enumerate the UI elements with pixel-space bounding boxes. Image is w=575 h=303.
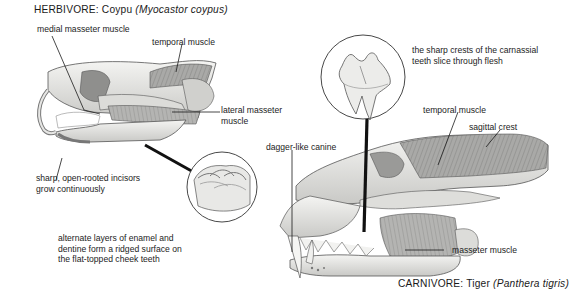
- label-coypu-temporal: temporal muscle: [152, 37, 215, 48]
- tiger-skull: [280, 134, 548, 278]
- label-sagittal-crest: sagittal crest: [469, 122, 517, 133]
- label-incisors-line2: grow continuously: [36, 184, 140, 195]
- label-cheek-teeth-line1: alternate layers of enamel and: [58, 233, 182, 244]
- carnivore-title: CARNIVORE: Tiger (Panthera tigris): [398, 278, 569, 289]
- label-cheek-teeth-line2: dentine form a ridged surface on: [58, 244, 182, 255]
- label-lateral-masseter-line2: muscle: [221, 116, 282, 127]
- label-canine: dagger-like canine: [266, 142, 336, 153]
- coypu-skull: [39, 61, 216, 142]
- label-carnassial-line2: teeth slice through flesh: [412, 56, 538, 67]
- herbivore-title: HERBIVORE: Coypu (Myocastor coypus): [34, 4, 228, 15]
- label-cheek-teeth: alternate layers of enamel and dentine f…: [58, 233, 182, 265]
- label-lateral-masseter-line1: lateral masseter: [221, 105, 282, 116]
- label-incisors-line1: sharp, open-rooted incisors: [36, 173, 140, 184]
- label-carnassial-line1: the sharp crests of the carnassial: [412, 45, 538, 56]
- coypu-cheek-tooth-inset: [145, 145, 257, 222]
- label-tiger-temporal: temporal muscle: [423, 105, 486, 116]
- carnivore-species: (Panthera tigris): [493, 278, 569, 289]
- carnivore-title-text: CARNIVORE: Tiger: [398, 278, 493, 289]
- label-incisors: sharp, open-rooted incisors grow continu…: [36, 173, 140, 194]
- herbivore-title-text: HERBIVORE: Coypu: [34, 4, 135, 15]
- herbivore-species: (Myocastor coypus): [135, 4, 227, 15]
- label-masseter: masseter muscle: [452, 245, 517, 256]
- label-medial-masseter: medial masseter muscle: [37, 24, 130, 35]
- label-lateral-masseter: lateral masseter muscle: [221, 105, 282, 126]
- label-carnassial: the sharp crests of the carnassial teeth…: [412, 45, 538, 66]
- label-cheek-teeth-line3: the flat-topped cheek teeth: [58, 254, 182, 265]
